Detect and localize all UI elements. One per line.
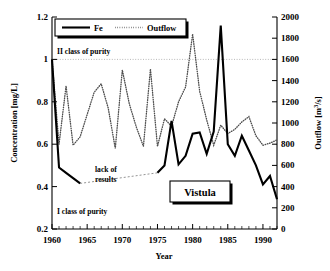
x-ticklabel-1980: 1980 [184,235,203,245]
class-two-annotation: II class of purity [57,47,111,56]
legend-label-fe: Fe [94,24,103,33]
x-ticklabel-1975: 1975 [149,235,168,245]
x-ticklabel-1990: 1990 [254,235,273,245]
x-ticklabel-1970: 1970 [113,235,132,245]
data-gap-connector [80,173,157,184]
right-ticklabel-400: 400 [281,182,295,192]
right-axis-title: Outflow [m3/s] [313,96,323,149]
svg-text:Outflow [m3/s]: Outflow [m3/s] [313,96,323,149]
chart-svg: 0.2 0.4 0.6 0.8 1 1.2 Concentration [mg/… [0,0,330,271]
lack-of-results-line-2: results [95,175,116,184]
river-callout: Vistula [170,181,233,205]
x-ticklabel-1965: 1965 [78,235,97,245]
right-axis-ticks: 0 200 400 600 800 1000 1200 1400 1600 18… [272,12,300,234]
lack-of-results-annotation: lack of results [95,165,117,184]
right-ticklabel-200: 200 [281,203,295,213]
x-axis-ticklabels: 1960 1965 1970 1975 1980 1985 1990 [43,235,273,245]
left-ticklabel-0.4: 0.4 [37,182,49,192]
right-ticklabel-1200: 1200 [281,97,300,107]
lack-of-results-line-1: lack of [95,165,117,174]
chart-figure: 0.2 0.4 0.6 0.8 1 1.2 Concentration [mg/… [0,0,330,271]
left-ticklabel-0.8: 0.8 [37,97,49,107]
left-ticklabel-1.2: 1.2 [37,12,49,22]
class-one-annotation: I class of purity [57,207,108,216]
right-ticklabel-800: 800 [281,139,295,149]
chart-legend: Fe Outflow [55,19,189,39]
right-ticklabel-1600: 1600 [281,54,300,64]
right-ticklabel-1400: 1400 [281,76,300,86]
right-ticklabel-0: 0 [281,224,286,234]
legend-label-outflow: Outflow [147,24,176,33]
x-ticklabel-1985: 1985 [219,235,238,245]
x-axis-ticks [52,224,277,229]
left-ticklabel-1: 1 [44,54,49,64]
left-ticklabel-0.6: 0.6 [37,139,49,149]
right-ticklabel-600: 600 [281,160,295,170]
left-ticklabel-0.2: 0.2 [37,224,49,234]
right-ticklabel-1000: 1000 [281,118,300,128]
x-axis-title: Year [156,251,173,261]
river-callout-label: Vistula [184,187,216,198]
right-ticklabel-2000: 2000 [281,12,300,22]
left-axis-ticks: 0.2 0.4 0.6 0.8 1 1.2 [37,12,57,234]
right-axis-title-tail: /s] [313,96,323,106]
x-ticklabel-1960: 1960 [43,235,62,245]
right-ticklabel-1800: 1800 [281,33,300,43]
right-axis-title-main: Outflow [m [313,108,323,150]
left-axis-title: Concentration [mg/L] [9,83,19,163]
